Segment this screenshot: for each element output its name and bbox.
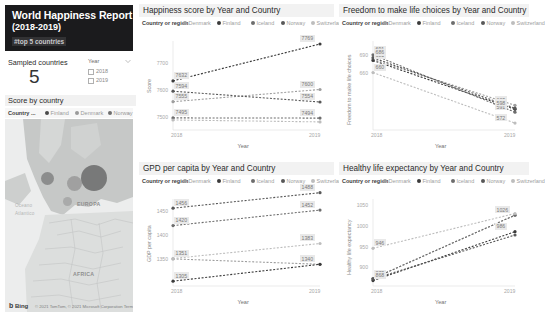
- chart-series-line-switzerland[interactable]: [373, 214, 515, 249]
- chart-legend-item-norway[interactable]: Norway: [481, 178, 505, 184]
- chart-data-point[interactable]: [318, 191, 321, 194]
- chart-data-point[interactable]: [371, 71, 374, 74]
- chart-data-point[interactable]: [171, 100, 174, 103]
- legend-dot-icon: [451, 179, 455, 183]
- chart-legend-item-finland[interactable]: Finland: [217, 178, 241, 184]
- chart-data-point[interactable]: [513, 107, 516, 110]
- chart-data-point[interactable]: [513, 212, 516, 215]
- map-legend-item-denmark[interactable]: Denmark: [75, 110, 103, 116]
- map-legend-item-finland[interactable]: Finland: [45, 110, 69, 116]
- x-axis-tick: 2019: [309, 132, 320, 138]
- chart-legend-item-finland[interactable]: Finland: [217, 20, 241, 26]
- chart-legend-item-denmark[interactable]: Denmark: [383, 20, 411, 26]
- checkbox-2019[interactable]: [88, 78, 94, 84]
- sampled-countries-value: 5: [29, 67, 40, 87]
- chart-series-line-denmark[interactable]: [373, 59, 515, 105]
- chart-data-label: 1026: [495, 206, 510, 213]
- page-subtitle: (2018-2019): [12, 22, 61, 32]
- chart-legend-item-iceland[interactable]: Iceland: [251, 20, 274, 26]
- chart-series-line-finland[interactable]: [373, 232, 515, 281]
- chart-panel-happiness[interactable]: Happiness score by Year and Country Coun…: [139, 4, 334, 156]
- chart-data-point[interactable]: [318, 209, 321, 212]
- chart-series-line-denmark[interactable]: [173, 90, 320, 102]
- chart-data-point[interactable]: [371, 59, 374, 62]
- chart-data-point[interactable]: [513, 230, 516, 233]
- chart-legend-item-iceland[interactable]: Iceland: [451, 178, 474, 184]
- chevron-down-icon[interactable]: [125, 59, 131, 64]
- map-bubble-finland[interactable]: [81, 165, 107, 191]
- chart-data-point[interactable]: [513, 122, 516, 125]
- chart-data-point[interactable]: [171, 280, 174, 283]
- chart-data-point[interactable]: [318, 42, 321, 45]
- chart-legend-item-norway[interactable]: Norway: [281, 178, 305, 184]
- chart-legend-item-finland[interactable]: Finland: [417, 178, 441, 184]
- chart-data-label: 1456: [174, 199, 189, 206]
- legend-overflow-icon[interactable]: ›: [128, 110, 130, 116]
- chart-data-point[interactable]: [318, 242, 321, 245]
- bing-logo[interactable]: b Bing: [9, 302, 28, 309]
- y-axis-label: GDP per capita: [146, 225, 152, 262]
- chart-legend-item-finland[interactable]: Finland: [417, 20, 441, 26]
- chart-panel-freedom[interactable]: Freedom to make life choices by Year and…: [339, 4, 529, 156]
- chart-legend-item-switzerland[interactable]: Switzerland: [511, 20, 545, 26]
- chart-legend-item-switzerland[interactable]: Switzerland: [511, 178, 545, 184]
- chart-series-line-switzerland[interactable]: [173, 244, 320, 259]
- legend-dot-icon: [383, 179, 387, 183]
- chart-series-line-denmark[interactable]: [173, 259, 320, 264]
- checkbox-2018[interactable]: [88, 69, 94, 75]
- chart-data-point[interactable]: [513, 111, 516, 114]
- chart-legend-item-norway[interactable]: Norway: [481, 20, 505, 26]
- map-bubble-switzerland[interactable]: [63, 197, 72, 206]
- chart-series-line-finland[interactable]: [373, 61, 515, 110]
- chart-series-line-iceland[interactable]: [373, 55, 515, 112]
- y-axis-tick: 1050: [341, 202, 368, 208]
- chart-data-point[interactable]: [171, 224, 174, 227]
- x-axis-label: Year: [435, 143, 446, 149]
- chart-legend-item-iceland[interactable]: Iceland: [251, 178, 274, 184]
- chart-data-point[interactable]: [318, 117, 321, 120]
- map-bubble-denmark[interactable]: [67, 176, 82, 191]
- chart-title: GPD per capita by Year and Country: [139, 162, 334, 175]
- chart-data-point[interactable]: [318, 263, 321, 266]
- y-axis-label: Freedom to make life choices: [346, 54, 352, 124]
- chart-series-line-switzerland[interactable]: [173, 120, 320, 122]
- chart-panel-health[interactable]: Healthy life expectancy by Year and Coun…: [339, 162, 529, 312]
- year-slicer[interactable]: Year 2018 2019: [86, 56, 133, 92]
- legend-dot-icon: [251, 21, 255, 25]
- chart-plot-area: 1050100095090020182019YearHealthy life e…: [339, 187, 529, 312]
- y-axis-tick: 7700: [141, 60, 168, 66]
- chart-legend: Country or regionDenmarkFinlandIcelandNo…: [339, 18, 529, 29]
- legend-dot-icon: [217, 21, 221, 25]
- chart-data-label: 686: [374, 49, 386, 56]
- chart-data-point[interactable]: [371, 247, 374, 250]
- x-axis-tick: 2019: [504, 132, 515, 138]
- chart-data-point[interactable]: [318, 88, 321, 91]
- score-by-country-map[interactable]: EUROPA AFRICA Oceano Atlantico b Bing © …: [5, 119, 133, 312]
- chart-legend-item-iceland[interactable]: Iceland: [451, 20, 474, 26]
- map-bubble-norway[interactable]: [41, 172, 54, 185]
- chart-plot-area: 14501400135020182019YearGDP per capita13…: [139, 187, 334, 312]
- chart-series-line-iceland[interactable]: [173, 210, 320, 226]
- chart-data-point[interactable]: [318, 100, 321, 103]
- chart-legend-item-denmark[interactable]: Denmark: [183, 20, 211, 26]
- chart-data-point[interactable]: [513, 233, 516, 236]
- year-option-2018[interactable]: 2018: [88, 68, 108, 75]
- chart-title: Healthy life expectancy by Year and Coun…: [339, 162, 529, 175]
- year-option-2019[interactable]: 2019: [88, 77, 108, 84]
- chart-series-line-iceland[interactable]: [373, 215, 515, 278]
- chart-series-line-norway[interactable]: [173, 193, 320, 209]
- legend-dot-icon: [451, 21, 455, 25]
- chart-series-line-norway[interactable]: [373, 235, 515, 279]
- chart-legend-item-denmark[interactable]: Denmark: [383, 178, 411, 184]
- chart-data-point[interactable]: [171, 257, 174, 260]
- chart-data-point[interactable]: [318, 120, 321, 123]
- chart-data-point[interactable]: [171, 118, 174, 121]
- chart-legend-item-denmark[interactable]: Denmark: [183, 178, 211, 184]
- chart-data-point[interactable]: [171, 207, 174, 210]
- chart-series-line-finland[interactable]: [173, 264, 320, 281]
- chart-legend-item-norway[interactable]: Norway: [281, 20, 305, 26]
- chart-data-point[interactable]: [513, 104, 516, 107]
- chart-panel-gdp[interactable]: GPD per capita by Year and Country Count…: [139, 162, 334, 312]
- chart-series-line-finland[interactable]: [173, 44, 320, 81]
